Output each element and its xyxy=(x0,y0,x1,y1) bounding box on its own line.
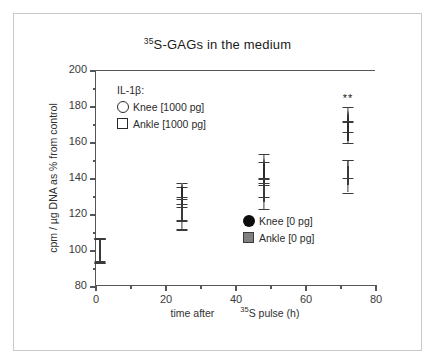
y-tick-mark xyxy=(90,250,96,251)
x-tick-mark xyxy=(305,285,306,291)
open-square-icon xyxy=(117,118,133,129)
legend-item-ankle-0-label: Ankle [0 pg] xyxy=(259,232,314,244)
figure-panel: 35S-GAGs in the medium cpm / µg DNA as %… xyxy=(0,0,435,364)
x-tick-mark xyxy=(165,285,166,291)
y-tick-mark xyxy=(93,88,97,89)
x-tick-label: 0 xyxy=(93,293,99,305)
legend-control: Knee [0 pg] Ankle [0 pg] xyxy=(243,212,314,246)
y-tick-mark xyxy=(93,268,97,269)
legend-item-knee-1000-label: Knee [1000 pg] xyxy=(133,101,204,113)
x-tick-mark xyxy=(270,285,271,289)
x-tick-label: 80 xyxy=(370,293,382,305)
error-bar-cap xyxy=(94,263,105,264)
legend-item-knee-1000: Knee [1000 pg] xyxy=(117,98,206,115)
y-tick-label: 120 xyxy=(69,207,87,219)
x-axis-label-superscript: 35 xyxy=(240,305,248,314)
legend-il1b: IL-1β: Knee [1000 pg] Ankle [1000 pg] xyxy=(117,84,206,132)
error-bar-cap xyxy=(176,197,187,198)
significance-marker: ** xyxy=(343,93,354,104)
y-axis-label-text: cpm / µg DNA as % from control xyxy=(47,103,59,253)
y-tick-mark xyxy=(90,70,96,71)
legend-item-knee-0: Knee [0 pg] xyxy=(243,212,314,229)
y-tick-label: 200 xyxy=(69,63,87,75)
legend-item-ankle-1000-label: Ankle [1000 pg] xyxy=(133,118,206,130)
y-tick-mark xyxy=(90,214,96,215)
x-axis-label-part2: S pulse (h) xyxy=(249,307,300,319)
error-bar-cap xyxy=(176,229,187,230)
error-bar-cap xyxy=(259,178,270,179)
x-tick-mark xyxy=(95,285,96,291)
y-tick-label: 100 xyxy=(69,243,87,255)
x-axis-label: time after35S pulse (h) xyxy=(95,305,375,319)
y-tick-mark xyxy=(90,142,96,143)
y-tick-label: 80 xyxy=(75,279,87,291)
x-tick-mark xyxy=(200,285,201,289)
data-point xyxy=(263,184,265,202)
open-circle-icon xyxy=(117,101,133,113)
error-bar-cap xyxy=(343,107,354,108)
legend-il1b-header: IL-1β: xyxy=(117,84,206,96)
filled-circle-icon xyxy=(243,215,259,227)
y-tick-mark xyxy=(90,106,96,107)
y-tick-mark xyxy=(93,196,97,197)
y-tick-mark xyxy=(93,232,97,233)
x-tick-label: 20 xyxy=(160,293,172,305)
error-bar-cap xyxy=(343,160,354,161)
y-tick-mark xyxy=(90,178,96,179)
data-point xyxy=(99,242,101,260)
chart-title: 35S-GAGs in the medium xyxy=(0,36,435,52)
x-tick-label: 60 xyxy=(300,293,312,305)
data-point xyxy=(347,167,349,185)
y-tick-mark xyxy=(93,160,97,161)
x-axis-label-part1: time after xyxy=(171,307,215,319)
x-tick-mark xyxy=(130,285,131,289)
data-point xyxy=(347,123,349,141)
gray-square-icon xyxy=(243,232,259,243)
legend-item-knee-0-label: Knee [0 pg] xyxy=(259,215,313,227)
y-axis-label: cpm / µg DNA as % from control xyxy=(45,70,61,286)
title-text: S-GAGs in the medium xyxy=(154,37,292,52)
data-point xyxy=(181,204,183,222)
y-tick-mark xyxy=(93,124,97,125)
error-bar-cap xyxy=(259,154,270,155)
x-tick-label: 40 xyxy=(230,293,242,305)
legend-item-ankle-0: Ankle [0 pg] xyxy=(243,229,314,246)
error-bar-cap xyxy=(343,193,354,194)
y-tick-label: 180 xyxy=(69,99,87,111)
y-tick-label: 160 xyxy=(69,135,87,147)
x-tick-mark xyxy=(375,285,376,291)
error-bar-cap xyxy=(343,143,354,144)
title-superscript: 35 xyxy=(144,36,154,46)
error-bar-cap xyxy=(259,209,270,210)
x-tick-mark xyxy=(340,285,341,289)
x-tick-mark xyxy=(235,285,236,291)
legend-item-ankle-1000: Ankle [1000 pg] xyxy=(117,115,206,132)
y-tick-label: 140 xyxy=(69,171,87,183)
